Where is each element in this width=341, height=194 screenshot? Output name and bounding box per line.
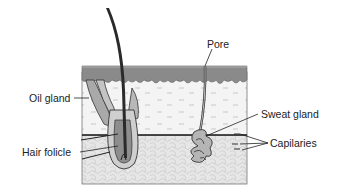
skin-diagram: Pore Oil gland Hair folicle Sweat gland … xyxy=(0,0,341,194)
label-sweat-gland: Sweat gland xyxy=(261,108,319,120)
label-hair-folicle: Hair folicle xyxy=(22,146,71,158)
label-oil-gland: Oil gland xyxy=(29,92,70,104)
subcutaneous-layer xyxy=(82,135,247,184)
label-capilaries: Capilaries xyxy=(270,137,317,149)
epidermis-layer xyxy=(82,66,247,84)
pore-leader xyxy=(205,49,212,66)
label-pore: Pore xyxy=(207,38,229,50)
